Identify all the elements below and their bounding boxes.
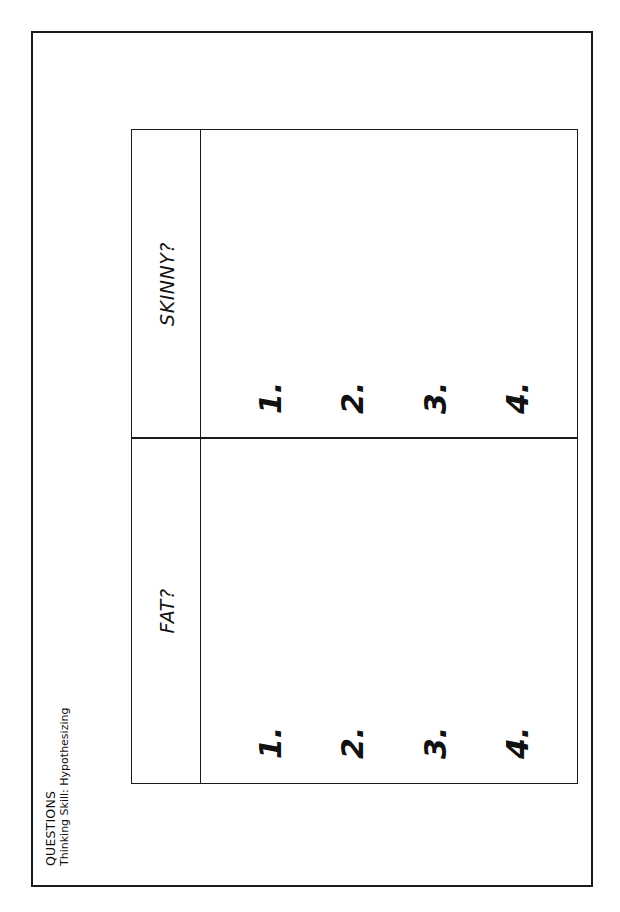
skinny-answer-4: 4. (503, 374, 533, 414)
fat-answer-1: 1. (256, 719, 286, 759)
worksheet-page: QUESTIONS Thinking Skill: Hypothesizing … (0, 0, 620, 912)
worksheet-subtitle: Thinking Skill: Hypothesizing (58, 708, 71, 866)
fat-answer-3: 3. (421, 719, 451, 759)
worksheet-title: QUESTIONS (44, 791, 58, 866)
column-header-skinny: SKINNY? (132, 130, 201, 438)
skinny-answer-3: 3. (421, 374, 451, 414)
fat-answer-2: 2. (338, 719, 368, 759)
column-header-skinny-label: SKINNY? (156, 242, 178, 326)
column-header-fat-label: FAT? (156, 588, 178, 633)
skinny-answer-2: 2. (338, 374, 368, 414)
column-header-fat: FAT? (132, 439, 201, 783)
fat-answer-4: 4. (503, 719, 533, 759)
skinny-answer-1: 1. (256, 374, 286, 414)
hypothesis-table: FAT? SKINNY? 1. 2. 3. 4. 1. 2. 3. 4. (131, 129, 578, 784)
